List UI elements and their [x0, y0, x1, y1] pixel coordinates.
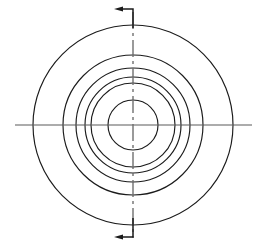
section-arrow-bottom-head-icon	[114, 234, 123, 239]
technical-drawing-canvas	[0, 0, 265, 250]
section-arrow-top-head-icon	[114, 6, 123, 11]
concentric-circles-drawing	[0, 0, 265, 250]
section-arrow-bottom-group	[114, 218, 133, 240]
section-arrow-bottom	[121, 218, 133, 237]
